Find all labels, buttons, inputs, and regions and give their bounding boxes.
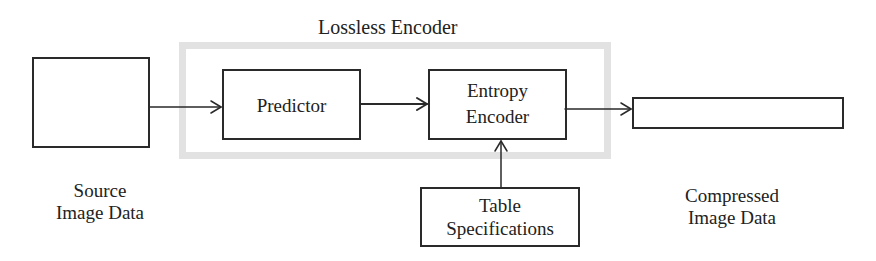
- arrow-table-to-entropy: [495, 141, 507, 187]
- arrow-predictor-to-entropy: [361, 98, 427, 110]
- arrow-entropy-to-compressed: [565, 103, 631, 115]
- arrow-source-to-predictor: [150, 101, 221, 113]
- connector-arrows: [0, 0, 876, 261]
